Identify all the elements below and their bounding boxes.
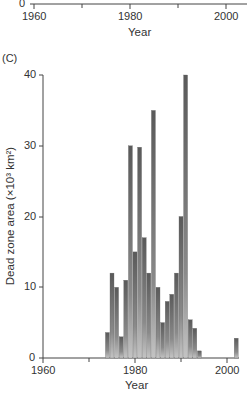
top-x-tick-1980: 1980	[118, 10, 142, 22]
bar-series	[105, 75, 238, 358]
x-tick-2000: 2000	[215, 364, 239, 376]
x-axis-title: Year	[125, 379, 148, 391]
bar-1982	[142, 238, 146, 358]
bar-1993	[193, 328, 197, 358]
bar-1985	[156, 287, 160, 358]
y-tick-0: 0	[29, 351, 35, 363]
y-tick-20: 20	[24, 210, 36, 222]
bar-1979	[128, 146, 132, 358]
top-x-tick-1960: 1960	[22, 10, 46, 22]
bar-1978	[124, 280, 128, 358]
bar-1989	[174, 273, 178, 358]
x-tick-1980: 1980	[123, 364, 147, 376]
bar-1981	[138, 147, 142, 358]
bar-1994	[197, 351, 201, 358]
x-tick-1960: 1960	[31, 364, 55, 376]
top-panel-axes	[30, 4, 247, 9]
bar-1991	[184, 75, 188, 358]
bar-1980	[133, 252, 137, 358]
bar-1975	[110, 273, 114, 358]
bar-1992	[188, 320, 192, 358]
chart-svg	[0, 0, 247, 393]
top-y-tick-0: 0	[19, 0, 25, 9]
bar-1976	[115, 287, 119, 358]
y-tick-30: 30	[24, 139, 36, 151]
top-x-tick-2000: 2000	[214, 10, 238, 22]
bar-1990	[179, 217, 183, 359]
bar-1983	[147, 273, 151, 358]
top-x-axis-title: Year	[128, 26, 151, 38]
bar-1988	[170, 294, 174, 358]
bar-1986	[161, 323, 165, 358]
y-tick-40: 40	[24, 68, 36, 80]
bar-1974	[105, 333, 109, 359]
panel-label-c: (C)	[2, 52, 17, 64]
bar-1977	[119, 337, 123, 358]
y-tick-10: 10	[24, 280, 36, 292]
bar-1984	[151, 110, 155, 358]
bar-2002	[234, 338, 238, 358]
bar-1987	[165, 301, 169, 358]
y-axis-title: Dead zone area (×10³ km²)	[4, 147, 16, 285]
